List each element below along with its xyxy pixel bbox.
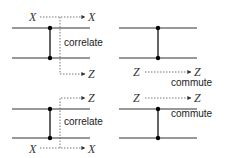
control-dot — [48, 56, 52, 60]
control-dot — [156, 136, 160, 140]
control-dot — [48, 107, 52, 111]
input-pauli-label: Z — [133, 65, 140, 79]
control-dot — [156, 107, 160, 111]
output-bottom-pauli-label: Z — [88, 67, 95, 81]
panel-bottom-left: X X Z correlate — [12, 91, 103, 156]
output-top-pauli-label: X — [87, 10, 96, 24]
output-top-pauli-label: Z — [88, 91, 95, 105]
panel-top-left: X X Z correlate — [12, 10, 103, 81]
output-pauli-label: Z — [194, 91, 201, 105]
caption: correlate — [64, 37, 103, 48]
output-bottom-pauli-label: X — [87, 142, 96, 156]
cz-propagation-diagram: X X Z correlate Z Z commute X X Z correl… — [0, 0, 230, 158]
control-dot — [48, 26, 52, 30]
panel-bottom-right: Z Z commute — [119, 91, 213, 140]
caption: correlate — [64, 116, 103, 127]
control-dot — [156, 56, 160, 60]
input-pauli-label: X — [28, 142, 37, 156]
input-pauli-label: Z — [133, 91, 140, 105]
control-dot — [48, 136, 52, 140]
panel-top-right: Z Z commute — [119, 26, 213, 88]
caption: commute — [171, 108, 213, 119]
input-pauli-label: X — [28, 10, 37, 24]
control-dot — [156, 26, 160, 30]
caption: commute — [171, 77, 213, 88]
